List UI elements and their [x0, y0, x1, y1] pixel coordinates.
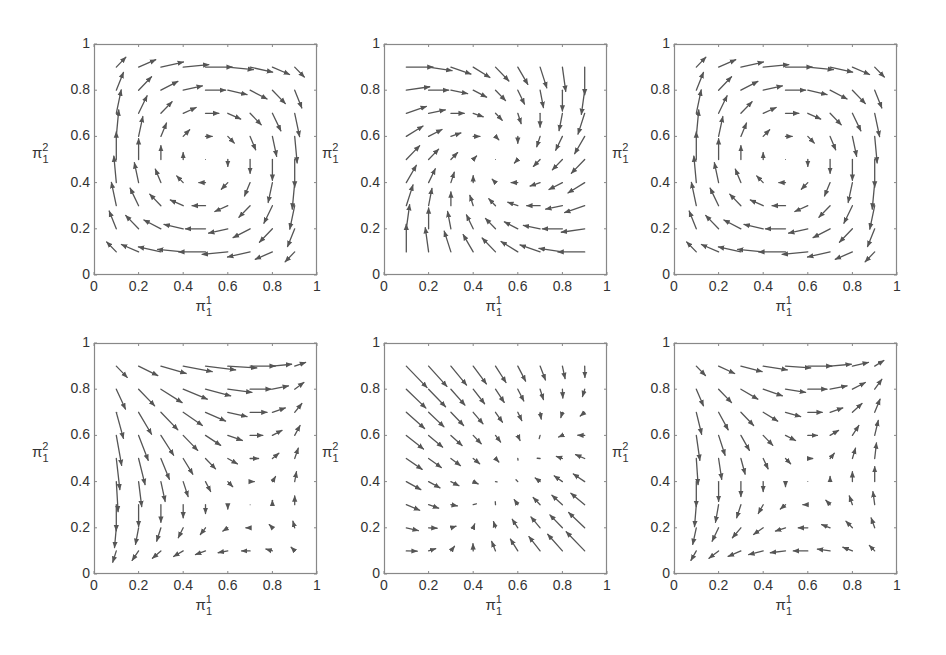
y-tick-label: 1 [56, 36, 90, 50]
plot-area [94, 44, 317, 275]
y-tick-label: 0.2 [56, 520, 90, 534]
y-tick-label: 0.4 [346, 175, 380, 189]
y-tick-label: 0.4 [56, 175, 90, 189]
y-tick-label: 0.2 [636, 221, 670, 235]
x-axis-label: π11 [196, 297, 213, 314]
x-tick-label: 0.2 [124, 279, 154, 293]
x-tick-label: 0.8 [257, 279, 287, 293]
x-tick-label: 0.6 [213, 279, 243, 293]
x-tick-label: 0.4 [168, 578, 198, 592]
x-tick-label: 0 [659, 279, 689, 293]
plot-area [384, 44, 607, 275]
x-tick-label: 1 [592, 578, 622, 592]
quiver-plot-top-right: 00.20.40.60.8100.20.40.60.81π11π21 [674, 44, 897, 275]
x-tick-label: 0 [79, 578, 109, 592]
x-tick-label: 1 [882, 279, 912, 293]
y-tick-label: 0.2 [346, 221, 380, 235]
x-tick-label: 0 [659, 578, 689, 592]
y-tick-label: 0.6 [346, 427, 380, 441]
y-tick-label: 0.4 [636, 175, 670, 189]
quiver-plot-bottom-middle: 00.20.40.60.8100.20.40.60.81π11π21 [384, 343, 607, 574]
plot-area [674, 44, 897, 275]
y-axis-label: π21 [612, 443, 629, 460]
y-tick-label: 0.4 [56, 474, 90, 488]
y-tick-label: 0.4 [346, 474, 380, 488]
y-tick-label: 0.8 [56, 82, 90, 96]
x-axis-label: π11 [486, 596, 503, 613]
x-tick-label: 0.2 [414, 578, 444, 592]
x-tick-label: 1 [882, 578, 912, 592]
y-axis-label: π21 [322, 144, 339, 161]
x-axis-label: π11 [776, 596, 793, 613]
x-tick-label: 0.8 [837, 279, 867, 293]
y-tick-label: 0.8 [636, 82, 670, 96]
y-tick-label: 1 [636, 335, 670, 349]
vector-arrow [539, 435, 540, 438]
vector-arrow [473, 504, 476, 505]
y-tick-label: 0.4 [636, 474, 670, 488]
x-axis-label: π11 [196, 596, 213, 613]
x-tick-label: 0.2 [414, 279, 444, 293]
x-tick-label: 0.4 [748, 279, 778, 293]
y-tick-label: 1 [346, 36, 380, 50]
x-axis-label: π11 [776, 297, 793, 314]
x-tick-label: 0.6 [213, 578, 243, 592]
y-tick-label: 0.6 [636, 427, 670, 441]
x-tick-label: 0.6 [793, 279, 823, 293]
y-tick-label: 1 [346, 335, 380, 349]
x-tick-label: 0.6 [503, 578, 533, 592]
x-tick-label: 0.4 [748, 578, 778, 592]
x-tick-label: 0.8 [547, 279, 577, 293]
y-tick-label: 0.8 [346, 381, 380, 395]
plot-area [384, 343, 607, 574]
y-tick-label: 0.6 [56, 427, 90, 441]
x-tick-label: 0.4 [458, 578, 488, 592]
x-tick-label: 0.4 [458, 279, 488, 293]
plot-area [674, 343, 897, 574]
quiver-plot-top-left: 00.20.40.60.8100.20.40.60.81π11π21 [94, 44, 317, 275]
x-tick-label: 0.8 [547, 578, 577, 592]
x-tick-label: 1 [302, 578, 332, 592]
y-tick-label: 0.8 [56, 381, 90, 395]
y-tick-label: 0.6 [346, 128, 380, 142]
x-tick-label: 0.4 [168, 279, 198, 293]
x-tick-label: 0.6 [503, 279, 533, 293]
y-tick-label: 1 [636, 36, 670, 50]
y-tick-label: 0.6 [636, 128, 670, 142]
x-tick-label: 0.2 [704, 279, 734, 293]
y-tick-label: 0.2 [636, 520, 670, 534]
plot-area [94, 343, 317, 574]
x-tick-label: 0.8 [257, 578, 287, 592]
y-tick-label: 0.8 [636, 381, 670, 395]
y-tick-label: 0.2 [56, 221, 90, 235]
y-axis-label: π21 [612, 144, 629, 161]
x-axis-label: π11 [486, 297, 503, 314]
quiver-plot-top-middle: 00.20.40.60.8100.20.40.60.81π11π21 [384, 44, 607, 275]
quiver-plot-bottom-left: 00.20.40.60.8100.20.40.60.81π11π21 [94, 343, 317, 574]
y-tick-label: 1 [56, 335, 90, 349]
x-tick-label: 0.2 [124, 578, 154, 592]
x-tick-label: 0.2 [704, 578, 734, 592]
x-tick-label: 1 [592, 279, 622, 293]
y-tick-label: 0.8 [346, 82, 380, 96]
y-axis-label: π21 [32, 144, 49, 161]
y-axis-label: π21 [322, 443, 339, 460]
x-tick-label: 0.6 [793, 578, 823, 592]
x-tick-label: 0 [369, 279, 399, 293]
quiver-plot-bottom-right: 00.20.40.60.8100.20.40.60.81π11π21 [674, 343, 897, 574]
x-tick-label: 0.8 [837, 578, 867, 592]
x-tick-label: 0 [369, 578, 399, 592]
y-tick-label: 0.2 [346, 520, 380, 534]
y-tick-label: 0.6 [56, 128, 90, 142]
x-tick-label: 1 [302, 279, 332, 293]
x-tick-label: 0 [79, 279, 109, 293]
y-axis-label: π21 [32, 443, 49, 460]
